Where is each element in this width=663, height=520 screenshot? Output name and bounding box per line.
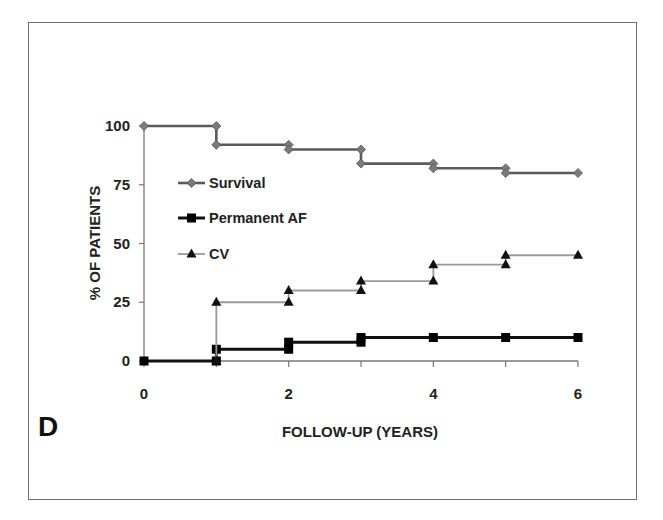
diamond-marker <box>212 122 221 131</box>
legend-item: CV <box>178 246 229 262</box>
triangle-marker <box>428 259 438 268</box>
diamond-marker <box>187 179 196 188</box>
series-layer <box>140 122 584 366</box>
x-axis-title: FOLLOW-UP (YEARS) <box>282 423 438 440</box>
square-marker <box>574 333 583 342</box>
triangle-marker <box>501 250 511 259</box>
triangle-marker <box>356 276 366 285</box>
diamond-marker <box>212 140 221 149</box>
triangle-marker <box>501 259 511 268</box>
x-tick-label: 2 <box>284 385 292 402</box>
series-cv <box>211 250 583 365</box>
legend: SurvivalPermanent AFCV <box>178 175 307 262</box>
x-tick-label: 6 <box>574 385 582 402</box>
y-axis-title: % OF PATIENTS <box>86 186 103 300</box>
diamond-marker <box>574 169 583 178</box>
triangle-marker <box>187 249 197 258</box>
legend-label: CV <box>209 246 229 262</box>
y-tick-label: 25 <box>113 293 130 310</box>
square-marker <box>501 333 510 342</box>
triangle-marker <box>428 276 438 285</box>
triangle-marker <box>211 297 221 306</box>
legend-label: Permanent AF <box>209 210 307 226</box>
square-marker <box>429 333 438 342</box>
legend-item: Survival <box>178 175 265 191</box>
legend-item: Permanent AF <box>178 210 307 226</box>
y-tick-label: 0 <box>122 352 130 369</box>
y-tick-label: 50 <box>113 235 130 252</box>
x-ticks: 0246 <box>140 361 582 402</box>
square-marker <box>284 338 293 347</box>
series-survival <box>140 122 583 178</box>
y-ticks: 0255075100 <box>105 117 144 369</box>
diamond-marker <box>357 159 366 168</box>
y-tick-label: 75 <box>113 176 130 193</box>
triangle-marker <box>573 250 583 259</box>
square-marker <box>187 214 196 223</box>
triangle-marker <box>284 285 294 294</box>
square-marker <box>140 357 149 366</box>
chart: 0255075100 0246 SurvivalPermanent AFCV F… <box>0 0 663 520</box>
panel-label: D <box>38 411 58 442</box>
x-tick-label: 0 <box>140 385 148 402</box>
triangle-marker <box>284 297 294 306</box>
diamond-marker <box>357 145 366 154</box>
y-tick-label: 100 <box>105 117 130 134</box>
step-line <box>216 255 578 361</box>
x-tick-label: 4 <box>429 385 438 402</box>
legend-label: Survival <box>209 175 265 191</box>
diamond-marker <box>140 122 149 131</box>
triangle-marker <box>356 285 366 294</box>
square-marker <box>357 333 366 342</box>
